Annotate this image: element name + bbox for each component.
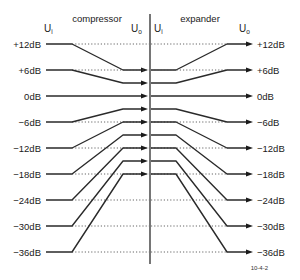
compressor-arrow	[141, 68, 148, 73]
compressor-arrow	[141, 172, 148, 177]
expander-title: expander	[180, 13, 220, 24]
expander-arrow	[246, 120, 253, 125]
output-level-label: −30dB	[257, 221, 285, 232]
left-output-label: Uo	[131, 23, 142, 35]
compressor-curve	[46, 44, 143, 70]
compressor-arrow	[141, 133, 148, 138]
output-level-label: −24dB	[257, 195, 285, 206]
compressor-arrow	[141, 107, 148, 112]
expander-arrow	[246, 146, 253, 151]
output-level-label: +12dB	[257, 39, 285, 50]
output-level-label: −12dB	[257, 143, 285, 154]
expander-curve	[151, 70, 247, 83]
compressor-curve	[46, 174, 143, 252]
expander-arrow	[246, 42, 253, 47]
expander-curve	[151, 174, 247, 252]
expander-arrow	[246, 68, 253, 73]
expander-curve	[151, 135, 247, 174]
figure-id: 10-4-2	[251, 265, 269, 271]
compressor-arrow	[141, 120, 148, 125]
expander-curve	[151, 109, 247, 122]
output-level-label: −18dB	[257, 169, 285, 180]
input-level-label: +6dB	[19, 65, 41, 76]
output-level-label: −6dB	[257, 117, 279, 128]
input-level-label: −18dB	[13, 169, 41, 180]
compressor-arrow	[141, 146, 148, 151]
expander-arrow	[246, 94, 253, 99]
svg-text:Ui: Ui	[154, 23, 163, 35]
compressor-arrow	[141, 159, 148, 164]
expander-curve	[151, 44, 247, 70]
compressor-curve	[46, 109, 143, 122]
input-level-label: −36dB	[13, 247, 41, 258]
compressor-arrow	[141, 94, 148, 99]
input-level-label: +12dB	[13, 39, 41, 50]
input-level-label: −24dB	[13, 195, 41, 206]
svg-text:Uo: Uo	[131, 23, 142, 35]
input-level-label: 0dB	[24, 91, 41, 102]
compressor-curve	[46, 135, 143, 174]
expander-arrow	[246, 172, 253, 177]
compressor-arrow	[141, 81, 148, 86]
input-level-label: −12dB	[13, 143, 41, 154]
right-output-label: Uo	[239, 23, 250, 35]
svg-text:Ui: Ui	[44, 23, 53, 35]
compressor-curve	[46, 161, 143, 226]
output-level-label: +6dB	[257, 65, 279, 76]
left-input-label: Ui	[44, 23, 53, 35]
right-input-label: Ui	[154, 23, 163, 35]
output-level-label: −36dB	[257, 247, 285, 258]
expander-arrow	[246, 198, 253, 203]
compressor-title: compressor	[72, 13, 122, 24]
svg-text:Uo: Uo	[239, 23, 250, 35]
output-level-label: 0dB	[257, 91, 274, 102]
expander-arrow	[246, 250, 253, 255]
expander-arrow	[246, 224, 253, 229]
compander-diagram: compressor expander Ui Uo Ui Uo +12dB+12…	[0, 0, 300, 280]
input-level-label: −6dB	[19, 117, 41, 128]
compressor-curve	[46, 70, 143, 83]
input-level-label: −30dB	[13, 221, 41, 232]
